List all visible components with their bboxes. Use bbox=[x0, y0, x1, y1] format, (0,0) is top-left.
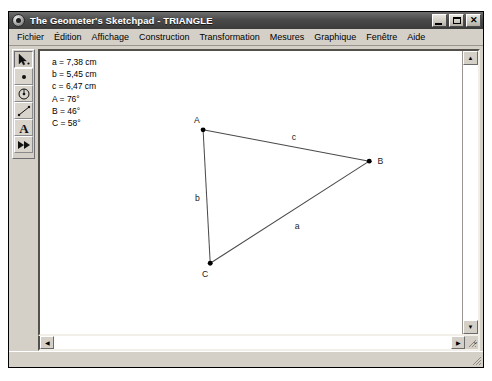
side-label-c[interactable]: c bbox=[292, 132, 297, 142]
sketch-area: a = 7,38 cm b = 5,45 cm c = 6,47 cm A = … bbox=[38, 49, 480, 351]
compass-circle-tool[interactable] bbox=[14, 85, 33, 102]
vertex-label-c[interactable]: C bbox=[202, 269, 208, 279]
close-icon: ✕ bbox=[470, 16, 478, 25]
maximize-button[interactable] bbox=[449, 14, 464, 27]
scroll-down-button[interactable]: ▼ bbox=[463, 320, 478, 334]
minimize-button[interactable] bbox=[432, 14, 447, 27]
segment-c[interactable] bbox=[203, 130, 369, 161]
custom-transform-tool[interactable] bbox=[14, 136, 33, 153]
triangle-figure: A B C c b a bbox=[40, 51, 462, 334]
window-body: A a = 7,38 cm b = 5,45 cm c = 6,47 cm bbox=[9, 46, 483, 351]
segment-b[interactable] bbox=[203, 130, 210, 263]
menu-transformation[interactable]: Transformation bbox=[194, 31, 264, 43]
menu-affichage[interactable]: Affichage bbox=[87, 31, 134, 43]
menu-aide[interactable]: Aide bbox=[402, 31, 430, 43]
vertical-scrollbar[interactable]: ▲ ▼ bbox=[462, 51, 478, 334]
point-dot-icon bbox=[16, 70, 32, 84]
application-window: The Geometer's Sketchpad - TRIANGLE ✕ Fi… bbox=[8, 11, 484, 368]
straightedge-segment-tool[interactable] bbox=[14, 102, 33, 119]
title-bar: The Geometer's Sketchpad - TRIANGLE ✕ bbox=[9, 12, 483, 29]
point-tool[interactable] bbox=[14, 68, 33, 85]
menu-edition[interactable]: Édition bbox=[49, 31, 87, 43]
close-button[interactable]: ✕ bbox=[466, 14, 481, 27]
minimize-icon bbox=[435, 23, 442, 25]
sketch-canvas-frame: a = 7,38 cm b = 5,45 cm c = 6,47 cm A = … bbox=[38, 49, 480, 336]
segment-a[interactable] bbox=[210, 161, 369, 263]
segment-line-icon bbox=[16, 104, 32, 118]
scroll-chevron-icon[interactable]: ⌄ bbox=[469, 335, 481, 348]
sketchpad-circle-icon bbox=[12, 14, 25, 27]
circle-compass-icon bbox=[16, 87, 32, 101]
window-title: The Geometer's Sketchpad - TRIANGLE bbox=[30, 15, 213, 26]
text-tool[interactable]: A bbox=[14, 119, 33, 136]
scroll-right-button[interactable]: ▶ bbox=[451, 336, 465, 349]
scroll-left-button[interactable]: ◀ bbox=[40, 336, 54, 349]
vertex-label-a[interactable]: A bbox=[194, 115, 200, 125]
menu-bar: Fichier Édition Affichage Construction T… bbox=[9, 29, 483, 46]
menu-graphique[interactable]: Graphique bbox=[309, 31, 361, 43]
vertical-scroll-track[interactable] bbox=[463, 65, 478, 320]
tool-palette: A bbox=[12, 49, 35, 159]
scroll-up-button[interactable]: ▲ bbox=[463, 51, 478, 65]
vertex-point-a[interactable] bbox=[201, 127, 206, 132]
vertex-point-c[interactable] bbox=[208, 261, 213, 266]
window-resize-grip[interactable] bbox=[471, 355, 482, 366]
window-footer: ⌄ bbox=[9, 351, 483, 367]
horizontal-scrollbar[interactable]: ◀ ▶ bbox=[40, 336, 465, 349]
horizontal-scroll-track[interactable] bbox=[54, 336, 451, 349]
menu-mesures[interactable]: Mesures bbox=[265, 31, 310, 43]
side-label-a[interactable]: a bbox=[295, 221, 300, 231]
double-triangle-forward-icon bbox=[16, 138, 32, 152]
vertex-point-b[interactable] bbox=[367, 159, 372, 164]
menu-construction[interactable]: Construction bbox=[134, 31, 195, 43]
sketch-canvas[interactable]: a = 7,38 cm b = 5,45 cm c = 6,47 cm A = … bbox=[40, 51, 462, 334]
window-controls: ✕ bbox=[432, 14, 481, 27]
arrow-cursor-icon bbox=[16, 53, 32, 67]
menu-fenetre[interactable]: Fenêtre bbox=[361, 31, 402, 43]
svg-text:A: A bbox=[19, 121, 29, 135]
selection-arrow-tool[interactable] bbox=[14, 51, 33, 68]
vertex-label-b[interactable]: B bbox=[377, 156, 383, 166]
menu-fichier[interactable]: Fichier bbox=[12, 31, 49, 43]
horizontal-scrollbar-row: ◀ ▶ bbox=[38, 336, 480, 351]
text-letter-a-icon: A bbox=[16, 121, 32, 135]
side-label-b[interactable]: b bbox=[195, 193, 200, 203]
maximize-icon bbox=[453, 17, 461, 24]
